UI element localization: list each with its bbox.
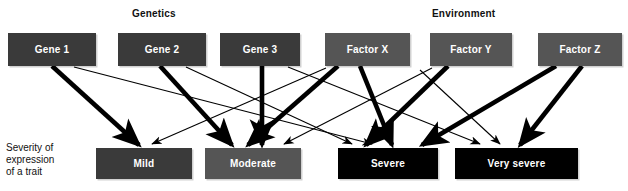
edge-factory-to-moderate [284,68,432,144]
group-header-environment: Environment [432,8,495,19]
edge-gene1-to-mild [52,66,139,145]
cause-gene-1[interactable]: Gene 1 [8,33,96,66]
cause-factor-z[interactable]: Factor Z [538,33,622,66]
cause-factor-x[interactable]: Factor X [325,33,410,66]
cause-factor-y[interactable]: Factor Y [430,33,512,66]
diagram-canvas: Genetics Environment Severity of express… [0,0,628,191]
severity-line-1: Severity of [6,142,54,154]
outcome-mild[interactable]: Mild [96,148,192,179]
cause-gene-2[interactable]: Gene 2 [118,33,206,66]
severity-line-3: of a trait [6,166,54,178]
severity-line-2: expression [6,154,54,166]
outcome-very-severe[interactable]: Very severe [455,148,578,179]
outcome-severe[interactable]: Severe [338,148,438,179]
edge-factorz-to-verysevere [520,66,582,145]
edge-factorx-to-mild [152,68,326,144]
severity-axis-label: Severity of expression of a trait [6,142,54,178]
cause-gene-3[interactable]: Gene 3 [220,33,300,66]
edge-gene3-to-severe [288,67,480,144]
outcome-moderate[interactable]: Moderate [205,148,301,179]
group-header-genetics: Genetics [132,8,176,19]
